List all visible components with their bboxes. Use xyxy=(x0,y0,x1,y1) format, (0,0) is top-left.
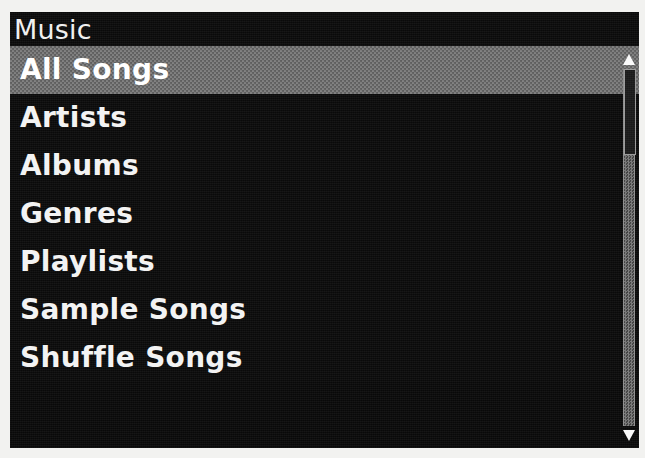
scrollbar[interactable] xyxy=(622,46,636,448)
menu-item-label: Albums xyxy=(20,142,139,190)
scrollbar-thumb[interactable] xyxy=(624,69,636,155)
music-menu-list[interactable]: All Songs Artists Albums Genres Playlist… xyxy=(10,46,639,448)
triangle-up-icon[interactable] xyxy=(623,54,635,65)
menu-item-label: Shuffle Songs xyxy=(20,334,243,382)
menu-item-genres[interactable]: Genres xyxy=(10,190,639,238)
menu-item-label: Artists xyxy=(20,94,127,142)
menu-item-playlists[interactable]: Playlists xyxy=(10,238,639,286)
ipod-lcd-screen: Music All Songs Artists Albums Genres Pl… xyxy=(10,12,639,448)
page-title: Music xyxy=(14,13,92,46)
menu-item-artists[interactable]: Artists xyxy=(10,94,639,142)
device-bezel: Music All Songs Artists Albums Genres Pl… xyxy=(0,0,645,458)
menu-item-shuffle-songs[interactable]: Shuffle Songs xyxy=(10,334,639,382)
scrollbar-track[interactable] xyxy=(623,69,635,426)
menu-item-label: Genres xyxy=(20,190,133,238)
titlebar: Music xyxy=(10,12,639,46)
menu-item-label: All Songs xyxy=(20,46,169,94)
triangle-down-icon[interactable] xyxy=(623,430,635,441)
menu-item-all-songs[interactable]: All Songs xyxy=(10,46,639,94)
menu-item-label: Playlists xyxy=(20,238,155,286)
menu-item-albums[interactable]: Albums xyxy=(10,142,639,190)
menu-item-label: Sample Songs xyxy=(20,286,246,334)
menu-item-sample-songs[interactable]: Sample Songs xyxy=(10,286,639,334)
